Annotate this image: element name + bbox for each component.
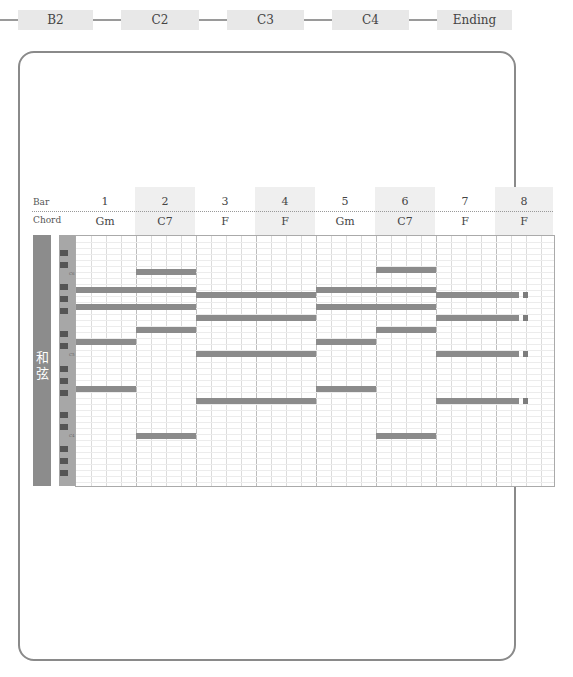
note-tail-marker[interactable] bbox=[523, 351, 528, 357]
black-key[interactable] bbox=[60, 343, 68, 349]
chord-name: F bbox=[255, 215, 315, 228]
pitch-row-line bbox=[76, 452, 554, 453]
pitch-row-line bbox=[76, 392, 554, 393]
chord-note[interactable] bbox=[376, 287, 436, 293]
pitch-row-line bbox=[76, 260, 554, 261]
pitch-row-line bbox=[76, 422, 554, 423]
piano-keyboard[interactable]: C6 C5 C4 bbox=[59, 235, 75, 486]
black-key[interactable] bbox=[60, 378, 68, 384]
chord-note[interactable] bbox=[196, 351, 316, 357]
note-tail-marker[interactable] bbox=[523, 398, 528, 404]
pitch-row-line bbox=[76, 344, 554, 345]
track-label-text: 和弦 bbox=[33, 350, 51, 382]
beat-line bbox=[421, 236, 422, 486]
chord-note[interactable] bbox=[76, 304, 136, 310]
pitch-row-line bbox=[76, 374, 554, 375]
bar-number: 5 bbox=[315, 195, 375, 208]
pitch-row-line bbox=[76, 416, 554, 417]
black-key[interactable] bbox=[60, 284, 68, 290]
chord-note[interactable] bbox=[436, 351, 519, 357]
black-key[interactable] bbox=[60, 296, 68, 302]
pitch-row-line bbox=[76, 458, 554, 459]
piano-roll-grid[interactable] bbox=[75, 235, 555, 487]
chord-note[interactable] bbox=[76, 287, 136, 293]
bar-line bbox=[196, 236, 197, 486]
chord-note[interactable] bbox=[76, 339, 136, 345]
black-key[interactable] bbox=[60, 446, 68, 452]
chord-note[interactable] bbox=[136, 327, 196, 333]
beat-line bbox=[331, 236, 332, 486]
section-timeline: B2 C2 C3 C4 Ending bbox=[0, 0, 573, 40]
black-key[interactable] bbox=[60, 262, 68, 268]
beat-line bbox=[346, 236, 347, 486]
pitch-row-line bbox=[76, 248, 554, 249]
black-key[interactable] bbox=[60, 250, 68, 256]
bar-number: 7 bbox=[435, 195, 495, 208]
chord-note[interactable] bbox=[136, 269, 196, 275]
chord-note[interactable] bbox=[376, 433, 436, 439]
chord-row-label: Chord bbox=[33, 215, 61, 225]
timeline-connector bbox=[409, 19, 437, 21]
black-key[interactable] bbox=[60, 390, 68, 396]
black-key[interactable] bbox=[60, 412, 68, 418]
chord-note[interactable] bbox=[196, 315, 316, 321]
black-key[interactable] bbox=[60, 470, 68, 476]
pitch-row-line bbox=[76, 362, 554, 363]
section-ending[interactable]: Ending bbox=[437, 10, 512, 30]
chord-note[interactable] bbox=[76, 386, 136, 392]
section-c3[interactable]: C3 bbox=[227, 10, 304, 30]
chord-note[interactable] bbox=[316, 386, 376, 392]
pitch-row-line bbox=[76, 410, 554, 411]
section-b2[interactable]: B2 bbox=[18, 10, 93, 30]
beat-line bbox=[466, 236, 467, 486]
black-key[interactable] bbox=[60, 424, 68, 430]
chord-note[interactable] bbox=[136, 304, 196, 310]
section-c2[interactable]: C2 bbox=[121, 10, 199, 30]
pitch-row-line bbox=[76, 446, 554, 447]
chord-note[interactable] bbox=[436, 315, 519, 321]
chord-note[interactable] bbox=[136, 287, 196, 293]
octave-label: C4 bbox=[69, 433, 75, 438]
chord-note[interactable] bbox=[316, 339, 376, 345]
bar-number: 8 bbox=[495, 195, 553, 208]
pitch-row-line bbox=[76, 266, 554, 267]
black-key[interactable] bbox=[60, 458, 68, 464]
chord-note[interactable] bbox=[376, 327, 436, 333]
black-key[interactable] bbox=[60, 366, 68, 372]
pitch-row-line bbox=[76, 482, 554, 483]
beat-line bbox=[226, 236, 227, 486]
chord-note[interactable] bbox=[376, 267, 436, 273]
chord-note[interactable] bbox=[316, 287, 376, 293]
chord-name: F bbox=[435, 215, 495, 228]
timeline-connector bbox=[93, 19, 121, 21]
beat-line bbox=[406, 236, 407, 486]
section-c4[interactable]: C4 bbox=[332, 10, 409, 30]
beat-line bbox=[271, 236, 272, 486]
pitch-row-line bbox=[76, 404, 554, 405]
pitch-row-line bbox=[76, 284, 554, 285]
chord-note[interactable] bbox=[376, 304, 436, 310]
header-divider bbox=[32, 211, 553, 212]
beat-line bbox=[91, 236, 92, 486]
note-tail-marker[interactable] bbox=[523, 292, 528, 298]
black-key[interactable] bbox=[60, 308, 68, 314]
bar-line bbox=[376, 236, 377, 486]
pitch-row-line bbox=[76, 368, 554, 369]
bar-line bbox=[256, 236, 257, 486]
beat-line bbox=[526, 236, 527, 486]
chord-name: F bbox=[495, 215, 553, 228]
note-tail-marker[interactable] bbox=[523, 315, 528, 321]
timeline-connector bbox=[0, 19, 18, 21]
chord-note[interactable] bbox=[436, 398, 519, 404]
chord-note[interactable] bbox=[196, 292, 316, 298]
bar-number: 2 bbox=[135, 195, 195, 208]
chord-note[interactable] bbox=[316, 304, 376, 310]
chord-note[interactable] bbox=[436, 292, 519, 298]
chord-note[interactable] bbox=[136, 433, 196, 439]
black-key[interactable] bbox=[60, 331, 68, 337]
chord-track-label: 和弦 bbox=[33, 235, 51, 486]
pitch-row-line bbox=[76, 380, 554, 381]
beat-line bbox=[361, 236, 362, 486]
chord-note[interactable] bbox=[196, 398, 316, 404]
beat-line bbox=[511, 236, 512, 486]
